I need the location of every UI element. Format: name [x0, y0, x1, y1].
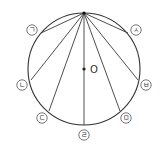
label-text: ㄷ	[39, 114, 45, 122]
circle-chord-diagram: O ㄱㄴㄷㄹㅁㅂㅅ	[0, 0, 160, 150]
point-label-giyeok: ㄱ	[27, 25, 37, 35]
chord-mieum	[84, 13, 120, 111]
apex-point	[82, 11, 85, 14]
label-text: ㄴ	[19, 81, 25, 89]
chord-digeut	[49, 13, 84, 111]
point-label-bieup: ㅂ	[141, 80, 151, 90]
label-text: ㄹ	[81, 131, 87, 139]
label-text: ㄱ	[29, 26, 35, 34]
point-label-digeut: ㄷ	[37, 113, 47, 123]
label-text: ㅅ	[133, 26, 139, 34]
point-label-rieul: ㄹ	[79, 130, 89, 140]
chord-nieun	[31, 13, 84, 80]
point-label-mieum: ㅁ	[121, 113, 131, 123]
center-point	[82, 67, 85, 70]
label-text: ㅁ	[123, 114, 129, 122]
point-label-siot: ㅅ	[131, 25, 141, 35]
label-text: ㅂ	[143, 81, 149, 89]
point-label-nieun: ㄴ	[17, 80, 27, 90]
center-label: O	[90, 64, 98, 75]
